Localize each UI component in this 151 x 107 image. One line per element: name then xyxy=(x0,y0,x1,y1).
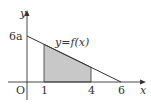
y-intercept-label: 6a xyxy=(9,30,23,43)
function-label: y=f(x) xyxy=(54,36,89,49)
x-tick-1: 1 xyxy=(41,84,48,97)
function-graph: y 6a y=f(x) O 1 4 6 x xyxy=(0,0,151,107)
x-tick-6: 6 xyxy=(118,84,125,97)
x-tick-4: 4 xyxy=(88,84,95,97)
origin-label: O xyxy=(16,84,25,97)
x-axis-label: x xyxy=(140,84,147,97)
shaded-area xyxy=(44,44,91,82)
y-axis-label: y xyxy=(19,7,27,20)
